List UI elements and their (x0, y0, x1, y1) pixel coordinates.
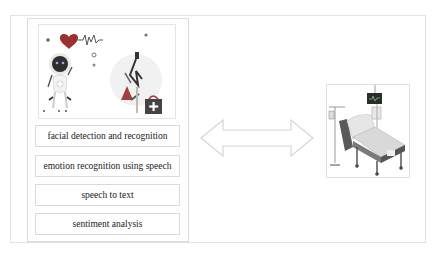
task-sentiment-analysis: sentiment analysis (35, 213, 180, 235)
task-speech-to-text: speech to text (35, 184, 180, 206)
medical-ai-illustration (38, 24, 176, 119)
double-arrow-icon (199, 118, 315, 160)
task-facial-detection: facial detection and recognition (35, 125, 180, 147)
task-emotion-recognition: emotion recognition using speech (35, 155, 180, 177)
robot-icon (43, 53, 72, 112)
hospital-bed-illustration (326, 84, 410, 178)
heart-pulse-icon (60, 34, 103, 49)
hospital-bed-icon (339, 115, 405, 176)
monitor-icon (367, 85, 382, 104)
